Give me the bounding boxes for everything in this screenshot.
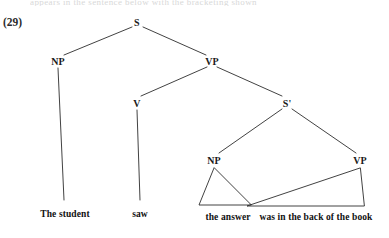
stem-np-to-subject bbox=[58, 68, 64, 200]
branch-sbar-to-vp bbox=[292, 109, 356, 153]
leaf-verb: saw bbox=[132, 209, 148, 219]
node-np-embedded: NP bbox=[207, 155, 221, 166]
node-vp-main: VP bbox=[205, 56, 219, 67]
node-v-main: V bbox=[133, 98, 140, 109]
leaf-embedded-np: the answer bbox=[205, 212, 250, 222]
branch-s-to-np bbox=[64, 27, 132, 55]
leaf-subject: The student bbox=[40, 209, 89, 219]
branch-vp-to-v bbox=[141, 67, 207, 96]
node-np-subject: NP bbox=[51, 56, 65, 67]
tree-branches bbox=[0, 0, 389, 238]
leaf-embedded-vp: was in the back of the book bbox=[259, 212, 372, 222]
syntax-tree-figure: appears in the sentence below with the b… bbox=[0, 0, 389, 238]
node-s-root: S bbox=[134, 17, 140, 28]
node-sbar: S' bbox=[283, 98, 292, 109]
branch-s-to-vp bbox=[143, 27, 206, 55]
node-vp-embedded: VP bbox=[353, 155, 367, 166]
branch-vp-to-sbar bbox=[217, 67, 282, 96]
stem-v-to-verb bbox=[137, 110, 140, 200]
triangle-embedded-np bbox=[199, 168, 251, 205]
branch-sbar-to-np bbox=[219, 109, 282, 153]
triangle-embedded-vp bbox=[247, 168, 364, 206]
